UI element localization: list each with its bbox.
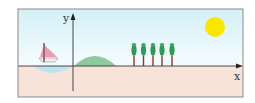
coordinate-scene-diagram: y x	[0, 0, 255, 103]
sky	[18, 9, 243, 66]
y-axis-label: y	[62, 12, 70, 25]
x-axis-label: x	[234, 70, 241, 83]
sun-icon	[205, 17, 225, 37]
